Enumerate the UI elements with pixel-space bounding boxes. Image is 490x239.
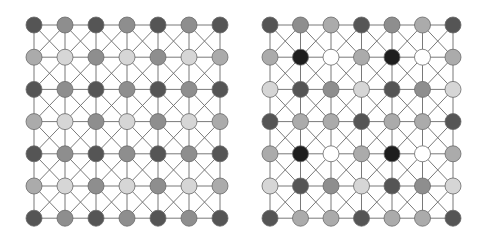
node-6-2 [323, 210, 339, 226]
node-2-0 [262, 81, 278, 97]
node-6-3 [354, 210, 370, 226]
node-2-3 [119, 81, 135, 97]
right-grid [262, 17, 461, 226]
node-1-2 [88, 49, 104, 65]
node-0-6 [445, 17, 461, 33]
node-0-2 [323, 17, 339, 33]
node-5-2 [88, 178, 104, 194]
node-0-4 [384, 17, 400, 33]
node-2-5 [181, 81, 197, 97]
node-3-1 [293, 114, 309, 130]
node-1-0 [262, 49, 278, 65]
node-1-1 [293, 49, 309, 65]
node-3-6 [445, 114, 461, 130]
node-5-4 [384, 178, 400, 194]
node-2-4 [150, 81, 166, 97]
node-5-0 [262, 178, 278, 194]
node-6-4 [150, 210, 166, 226]
node-1-3 [119, 49, 135, 65]
node-0-3 [354, 17, 370, 33]
grid-diagrams [0, 0, 490, 239]
node-1-5 [181, 49, 197, 65]
node-6-4 [384, 210, 400, 226]
node-4-6 [445, 146, 461, 162]
node-4-3 [119, 146, 135, 162]
node-3-6 [212, 114, 228, 130]
node-2-1 [57, 81, 73, 97]
node-1-6 [212, 49, 228, 65]
node-4-4 [150, 146, 166, 162]
node-0-1 [293, 17, 309, 33]
node-0-3 [119, 17, 135, 33]
node-6-1 [293, 210, 309, 226]
node-2-1 [293, 81, 309, 97]
node-6-3 [119, 210, 135, 226]
node-6-0 [26, 210, 42, 226]
node-0-5 [415, 17, 431, 33]
node-3-4 [384, 114, 400, 130]
node-4-0 [26, 146, 42, 162]
node-1-0 [26, 49, 42, 65]
node-2-2 [88, 81, 104, 97]
node-3-0 [262, 114, 278, 130]
node-1-4 [384, 49, 400, 65]
node-5-6 [445, 178, 461, 194]
node-2-3 [354, 81, 370, 97]
node-6-6 [445, 210, 461, 226]
node-4-2 [88, 146, 104, 162]
node-2-4 [384, 81, 400, 97]
node-1-4 [150, 49, 166, 65]
node-4-2 [323, 146, 339, 162]
node-0-0 [26, 17, 42, 33]
node-0-5 [181, 17, 197, 33]
node-1-2 [323, 49, 339, 65]
node-6-0 [262, 210, 278, 226]
node-1-5 [415, 49, 431, 65]
node-3-1 [57, 114, 73, 130]
node-3-4 [150, 114, 166, 130]
node-3-5 [415, 114, 431, 130]
node-2-2 [323, 81, 339, 97]
node-5-1 [57, 178, 73, 194]
node-6-5 [181, 210, 197, 226]
node-5-0 [26, 178, 42, 194]
node-5-5 [181, 178, 197, 194]
node-4-0 [262, 146, 278, 162]
node-4-4 [384, 146, 400, 162]
node-6-1 [57, 210, 73, 226]
node-1-1 [57, 49, 73, 65]
node-4-1 [57, 146, 73, 162]
node-4-5 [181, 146, 197, 162]
node-5-1 [293, 178, 309, 194]
node-2-5 [415, 81, 431, 97]
node-2-0 [26, 81, 42, 97]
node-4-6 [212, 146, 228, 162]
node-4-1 [293, 146, 309, 162]
node-5-2 [323, 178, 339, 194]
node-6-5 [415, 210, 431, 226]
node-5-4 [150, 178, 166, 194]
node-5-6 [212, 178, 228, 194]
node-3-2 [323, 114, 339, 130]
node-0-6 [212, 17, 228, 33]
node-4-5 [415, 146, 431, 162]
node-0-0 [262, 17, 278, 33]
node-3-3 [119, 114, 135, 130]
node-0-4 [150, 17, 166, 33]
node-4-3 [354, 146, 370, 162]
left-grid [26, 17, 228, 226]
node-5-3 [119, 178, 135, 194]
node-3-3 [354, 114, 370, 130]
node-1-6 [445, 49, 461, 65]
node-6-2 [88, 210, 104, 226]
node-3-2 [88, 114, 104, 130]
node-2-6 [212, 81, 228, 97]
node-3-0 [26, 114, 42, 130]
node-2-6 [445, 81, 461, 97]
node-1-3 [354, 49, 370, 65]
node-0-2 [88, 17, 104, 33]
node-3-5 [181, 114, 197, 130]
node-5-5 [415, 178, 431, 194]
node-6-6 [212, 210, 228, 226]
node-5-3 [354, 178, 370, 194]
